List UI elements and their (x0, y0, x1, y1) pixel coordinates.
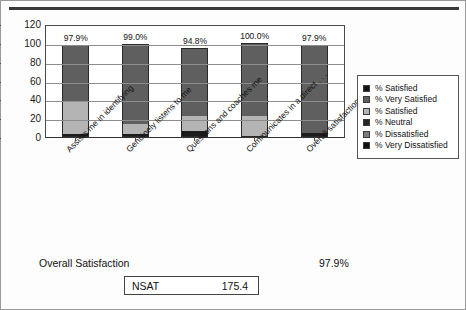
legend-item-label: % Satisfied (375, 84, 418, 93)
bar-data-label: 97.9% (284, 34, 344, 43)
y-axis-tick-mark (0, 63, 1, 64)
y-axis-tick-label: 80 (1, 58, 41, 68)
y-axis: 120100806040200 (1, 25, 41, 138)
legend-swatch-icon (363, 96, 370, 103)
legend-item[interactable]: % Very Dissatisfied (363, 141, 454, 150)
y-axis-tick-label: 120 (1, 20, 41, 30)
y-axis-tick-mark (0, 82, 1, 83)
bar-segment[interactable] (63, 46, 88, 101)
y-axis-tick-label: 60 (1, 77, 41, 87)
legend-swatch-icon (363, 119, 370, 126)
legend-item[interactable]: % Satisfied (363, 107, 454, 116)
header-rule (9, 7, 459, 10)
report-page: 120100806040200 97.9%99.0%94.8%100.0%97.… (0, 0, 466, 310)
legend-swatch-icon (363, 85, 370, 92)
legend-item[interactable]: % Neutral (363, 118, 454, 127)
y-axis-tick-mark (0, 138, 1, 139)
overall-satisfaction-value: 97.9% (319, 257, 349, 269)
gridline (46, 64, 344, 65)
bar-data-label: 97.9% (46, 34, 106, 43)
legend-item-label: % Very Satisfied (375, 95, 437, 104)
overall-satisfaction-label: Overall Satisfaction (39, 257, 129, 269)
y-axis-tick-label: 0 (1, 133, 41, 143)
legend-swatch-icon (363, 131, 370, 138)
legend-item-label: % Very Dissatisfied (375, 141, 448, 150)
legend-item[interactable]: % Dissatisfied (363, 130, 454, 139)
nsat-value: 175.4 (222, 280, 248, 292)
y-axis-tick-mark (0, 44, 1, 45)
nsat-box: NSAT 175.4 (124, 276, 259, 295)
summary-footer: Overall Satisfaction 97.9% NSAT 175.4 (1, 257, 466, 310)
y-axis-tick-label: 100 (1, 39, 41, 49)
legend-item-label: % Neutral (375, 118, 412, 127)
nsat-label: NSAT (132, 280, 159, 292)
y-axis-tick-label: 20 (1, 114, 41, 124)
legend-swatch-icon (363, 108, 370, 115)
bar-data-label: 99.0% (105, 33, 165, 42)
legend-swatch-icon (363, 142, 370, 149)
chart-legend: % Satisfied% Very Satisfied% Satisfied% … (357, 75, 459, 159)
gridline (46, 45, 344, 46)
bar-data-label: 100.0% (225, 32, 285, 41)
y-axis-tick-label: 40 (1, 95, 41, 105)
legend-item[interactable]: % Satisfied (363, 84, 454, 93)
legend-item-label: % Satisfied (375, 107, 418, 116)
legend-item[interactable]: % Very Satisfied (363, 95, 454, 104)
y-axis-tick-mark (0, 119, 1, 120)
y-axis-tick-mark (0, 100, 1, 101)
gridline (46, 83, 344, 84)
stacked-bar[interactable] (62, 45, 89, 137)
y-axis-tick-mark (0, 25, 1, 26)
legend-item-label: % Dissatisfied (375, 130, 428, 139)
